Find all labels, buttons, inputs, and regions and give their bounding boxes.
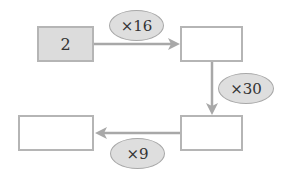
operation-label: ×16 xyxy=(121,17,153,35)
step1-box[interactable] xyxy=(180,26,243,62)
start-value: 2 xyxy=(60,35,70,54)
operation-times-9: ×9 xyxy=(110,138,165,169)
result-box[interactable] xyxy=(18,115,94,151)
operation-label: ×9 xyxy=(126,145,148,163)
operation-times-16: ×16 xyxy=(109,10,164,41)
step2-box[interactable] xyxy=(180,115,243,151)
operation-label: ×30 xyxy=(230,80,262,98)
start-box: 2 xyxy=(37,26,94,62)
operation-times-30: ×30 xyxy=(218,73,274,104)
